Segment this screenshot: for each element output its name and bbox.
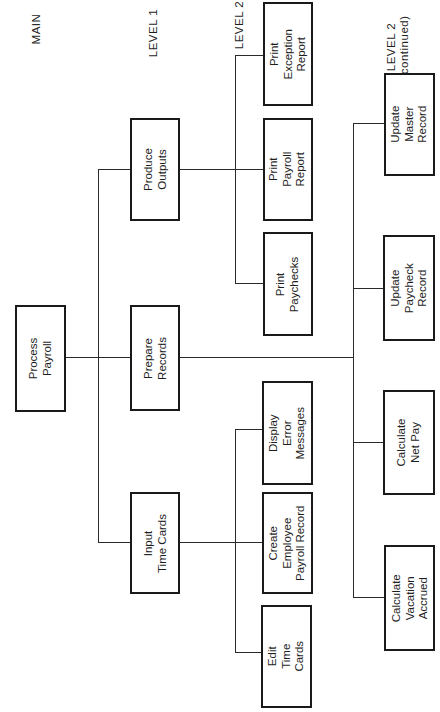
connector-to-update-paycheck-record — [353, 288, 384, 289]
box-calculate-net-pay: Calculate Net Pay — [383, 390, 435, 495]
connector-to-produce-outputs — [98, 169, 130, 170]
box-label: Edit Time Cards — [266, 641, 307, 672]
box-label: Display Error Messages — [267, 407, 308, 459]
heading-level2: LEVEL 2 — [233, 0, 247, 53]
connector-to-display-error-messages — [235, 429, 263, 430]
connector-to-calculate-vacation-accrued — [353, 597, 384, 598]
connector-to-calculate-net-pay — [353, 442, 384, 443]
box-label: Calculate Net Pay — [395, 419, 422, 467]
box-produce-outputs: Produce Outputs — [130, 118, 180, 221]
box-input-time-cards: Input Time Cards — [130, 492, 180, 594]
connector-prepare-records-out — [179, 357, 354, 358]
box-prepare-records: Prepare Records — [130, 305, 180, 411]
box-label: Process Payroll — [27, 338, 54, 380]
box-process-payroll: Process Payroll — [15, 305, 66, 412]
connector-to-update-master-record — [353, 123, 384, 124]
connector-input-time-cards-out — [179, 542, 263, 543]
box-label: Calculate Vacation Accrued — [389, 574, 430, 622]
box-label: Prepare Records — [141, 337, 168, 380]
box-label: Print Exception Report — [268, 29, 309, 80]
connector-to-input-time-cards — [98, 542, 130, 543]
box-label: Print Paychecks — [275, 256, 302, 312]
box-display-error-messages: Display Error Messages — [262, 381, 313, 485]
connector-to-edit-time-cards — [235, 652, 263, 653]
box-print-paychecks: Print Paychecks — [263, 232, 313, 336]
heading-main: MAIN — [30, 9, 44, 49]
box-label: Input Time Cards — [142, 514, 169, 573]
heading-level2-continued: LEVEL 2 (continued) — [385, 12, 413, 82]
box-label: Update Paycheck Record — [389, 263, 430, 313]
box-label: Produce Outputs — [142, 148, 169, 191]
box-update-master-record: Update Master Record — [384, 73, 435, 176]
box-label: Update Master Record — [389, 106, 430, 143]
box-print-exception-report: Print Exception Report — [263, 2, 313, 106]
box-print-payroll-report: Print Payroll Report — [263, 118, 313, 221]
box-edit-time-cards: Edit Time Cards — [261, 605, 312, 708]
connector-input-time-cards-spine — [235, 429, 236, 653]
heading-level1: LEVEL 1 — [147, 5, 161, 61]
connector-to-print-paychecks — [235, 283, 263, 284]
connector-prepare-records-spine — [353, 123, 354, 598]
box-label: Print Payroll Report — [268, 152, 309, 187]
connector-level1-spine — [98, 169, 99, 543]
payroll-hierarchy-chart: MAIN LEVEL 1 LEVEL 2 LEVEL 2 (continued)… — [0, 0, 440, 712]
connector-produce-outputs-out — [179, 169, 263, 170]
box-create-employee-payroll-record: Create Employee Payroll Record — [262, 492, 313, 594]
box-calculate-vacation-accrued: Calculate Vacation Accrued — [384, 545, 435, 651]
box-update-paycheck-record: Update Paycheck Record — [383, 235, 435, 341]
connector-to-print-exception-report — [235, 55, 263, 56]
box-label: Create Employee Payroll Record — [267, 505, 308, 580]
connector-produce-outputs-spine — [235, 55, 236, 284]
